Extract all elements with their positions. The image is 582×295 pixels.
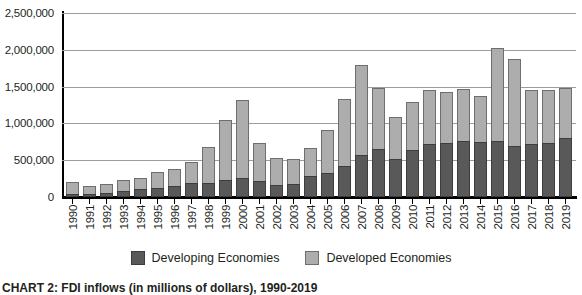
stacked-bar	[321, 130, 333, 197]
bar-segment-developing	[355, 155, 367, 197]
bar-segment-developing	[423, 144, 435, 197]
legend-item[interactable]: Developing Economies	[131, 251, 280, 265]
x-axis-tick-label: 2000	[237, 205, 249, 229]
bar-segment-developing	[117, 191, 129, 197]
chart-legend: Developing EconomiesDeveloped Economies	[0, 251, 582, 265]
x-axis-tick	[455, 198, 472, 204]
stacked-bar	[304, 148, 316, 197]
bar-segment-developed	[338, 99, 350, 165]
bar-segment-developing	[253, 181, 265, 197]
bar-segment-developing	[406, 150, 418, 197]
bar-segment-developing	[321, 173, 333, 197]
y-axis-tick-label: 1,500,000	[5, 81, 54, 93]
x-axis-tick-label: 2013	[458, 205, 470, 229]
x-axis-tick	[319, 198, 336, 204]
bar-segment-developing	[236, 178, 248, 197]
x-axis-label-cell: 1992	[98, 205, 115, 247]
bar-segment-developing	[100, 193, 112, 197]
stacked-bar	[66, 182, 78, 197]
bar-column	[302, 13, 319, 197]
x-axis-tick	[285, 198, 302, 204]
x-axis-tick-marks	[62, 198, 576, 204]
bar-segment-developed	[508, 59, 520, 146]
x-axis-tick	[251, 198, 268, 204]
tick-mark	[395, 198, 396, 204]
legend-label: Developed Economies	[326, 251, 451, 265]
bar-segment-developing	[134, 189, 146, 197]
bar-column	[251, 13, 268, 197]
stacked-bar	[270, 158, 282, 197]
tick-mark	[361, 198, 362, 204]
x-axis-tick	[183, 198, 200, 204]
bar-segment-developed	[270, 158, 282, 185]
stacked-bar	[202, 147, 214, 197]
x-axis-tick	[540, 198, 557, 204]
x-axis-tick	[217, 198, 234, 204]
x-axis-tick	[149, 198, 166, 204]
bar-column	[506, 13, 523, 197]
tick-mark	[276, 198, 277, 204]
tick-mark	[259, 198, 260, 204]
y-axis-tick-label: 2,500,000	[5, 7, 54, 19]
bar-segment-developing	[168, 186, 180, 197]
x-axis-tick-label: 2008	[373, 205, 385, 229]
bar-column	[455, 13, 472, 197]
x-axis-label-cell: 1994	[132, 205, 149, 247]
x-axis-label-cell: 2010	[404, 205, 421, 247]
dark-gray-swatch	[131, 251, 145, 265]
stacked-bar	[287, 159, 299, 197]
x-axis-label-cell: 2012	[438, 205, 455, 247]
bar-segment-developed	[219, 120, 231, 180]
bar-segment-developed	[253, 143, 265, 181]
x-axis-tick-label: 1995	[152, 205, 164, 229]
x-axis-tick	[438, 198, 455, 204]
x-axis-tick	[115, 198, 132, 204]
tick-mark	[72, 198, 73, 204]
x-axis-tick-label: 2005	[322, 205, 334, 229]
x-axis-tick	[353, 198, 370, 204]
bar-segment-developing	[270, 185, 282, 197]
legend-item[interactable]: Developed Economies	[305, 251, 451, 265]
x-axis-tick-label: 2012	[441, 205, 453, 229]
x-axis-tick-label: 1996	[169, 205, 181, 229]
x-axis-tick	[489, 198, 506, 204]
stacked-bar	[168, 169, 180, 197]
bar-segment-developed	[406, 102, 418, 150]
bar-segment-developed	[491, 48, 503, 141]
bar-column	[319, 13, 336, 197]
x-axis-tick-label: 1999	[220, 205, 232, 229]
x-axis-tick	[506, 198, 523, 204]
stacked-bar	[491, 48, 503, 197]
x-axis-tick-label: 1998	[203, 205, 215, 229]
x-axis-label-cell: 2015	[489, 205, 506, 247]
x-axis-label-cell: 1997	[183, 205, 200, 247]
y-axis-tick-label: 1,000,000	[5, 117, 54, 129]
x-axis-tick	[132, 198, 149, 204]
x-axis-label-cell: 2007	[353, 205, 370, 247]
bar-segment-developed	[151, 172, 163, 188]
x-axis-tick	[387, 198, 404, 204]
x-axis-label-cell: 2003	[285, 205, 302, 247]
bar-segment-developing	[491, 141, 503, 197]
bar-segment-developed	[372, 88, 384, 148]
stacked-bar	[406, 102, 418, 197]
bar-column	[438, 13, 455, 197]
x-axis-tick-label: 2004	[305, 205, 317, 229]
bar-segment-developing	[185, 183, 197, 197]
tick-mark	[225, 198, 226, 204]
x-axis-label-cell: 1990	[64, 205, 81, 247]
bar-segment-developing	[440, 143, 452, 197]
bar-segment-developing	[474, 142, 486, 197]
stacked-bar	[542, 90, 554, 197]
stacked-bar	[355, 65, 367, 197]
bar-segment-developing	[202, 183, 214, 197]
tick-mark	[208, 198, 209, 204]
x-axis-tick	[370, 198, 387, 204]
bar-column	[557, 13, 574, 197]
bar-column	[404, 13, 421, 197]
bar-segment-developing	[338, 166, 350, 197]
tick-mark	[89, 198, 90, 204]
x-axis-tick	[302, 198, 319, 204]
tick-mark	[514, 198, 515, 204]
x-axis-tick	[98, 198, 115, 204]
